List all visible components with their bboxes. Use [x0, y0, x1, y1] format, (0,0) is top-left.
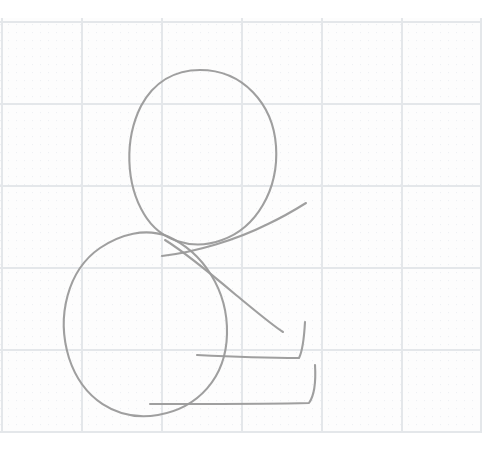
minor-grid: [0, 18, 481, 433]
sketch-canvas: [0, 0, 502, 456]
drawing-surface[interactable]: [0, 0, 502, 456]
